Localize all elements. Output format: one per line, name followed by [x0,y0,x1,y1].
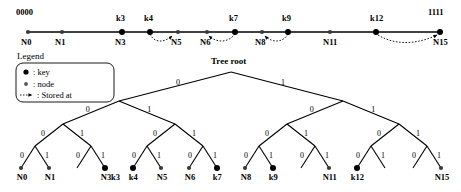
tree-leaf-node-dot-0 [19,166,23,170]
tree-bit-label-l2-n3-b0: 0 [377,130,381,138]
tree-bit-label-l1-n0-b1: 1 [147,106,151,114]
tree-bit-label-l2-n1-b0: 0 [153,130,157,138]
tree-bit-label-l3-n6-b0: 0 [356,152,360,160]
tree-bit-label-l2-n0-b0: 0 [41,130,45,138]
tree-leaf-key-dot-9 [270,165,276,171]
tree-leaf-label-k3: k3 [111,173,120,182]
tree-leaf-key-dot-4 [130,165,136,171]
tree-leaf-node-dot-11 [327,166,331,170]
tree-leaf-node-dot-8 [243,166,247,170]
tree-bit-label-l3-n7-b1: 1 [437,152,441,160]
tree-leaf-label-N8: N8 [241,173,251,182]
tree-edges [21,72,441,168]
tree-leaf-label-N0: N0 [17,173,27,182]
tree-bit-label-l1-n0-b0: 0 [86,106,90,114]
tree-bit-label-l0-n0-b0: 0 [176,79,180,87]
tree-edge-l2-n0-b1 [63,124,91,146]
tree-leaf-label-k9: k9 [269,173,278,182]
tree-edge-l0-n0-b1 [231,72,343,101]
tree-bit-label-l3-n3-b0: 0 [188,152,192,160]
tree-leaf-node-dot-6 [187,166,191,170]
binary-tree [0,0,461,192]
tree-bit-label-l0-n0-b1: 1 [281,79,285,87]
tree-bit-label-l1-n1-b1: 1 [371,106,375,114]
tree-bit-label-l2-n0-b1: 1 [80,130,84,138]
tree-leaf-label-N5: N5 [157,173,167,182]
tree-leaf-label-N3: N3 [101,173,111,182]
tree-leaf-key-dot-7 [214,165,220,171]
tree-leaf-node-dot-5 [159,166,163,170]
tree-bit-label-l3-n5-b0: 0 [300,152,304,160]
tree-bit-label-l2-n3-b1: 1 [416,130,420,138]
tree-bit-label-l3-n1-b1: 1 [101,152,105,160]
tree-bit-label-l3-n6-b1: 1 [381,152,385,160]
tree-edge-l2-n0-b0 [35,124,63,146]
tree-edge-l2-n1-b0 [147,124,175,146]
tree-bit-label-l2-n1-b1: 1 [192,130,196,138]
tree-leaf-node-dot-15 [439,166,443,170]
tree-edge-l2-n2-b1 [287,124,315,146]
tree-bit-label-l3-n7-b0: 0 [412,152,416,160]
tree-leaf-label-N15: N15 [435,173,450,182]
tree-bit-label-l3-n4-b0: 0 [244,152,248,160]
tree-leaf-dots [19,165,443,171]
tree-bit-label-l3-n0-b1: 1 [45,152,49,160]
figure-canvas: N0N1k3N3k4N5N6k7N8k9N11k12N1500001111 Le… [0,0,461,192]
tree-bit-label-l2-n2-b0: 0 [265,130,269,138]
tree-edge-l2-n2-b0 [259,124,287,146]
tree-bit-label-l3-n0-b0: 0 [20,152,24,160]
tree-edge-l1-n1-b0 [287,101,343,124]
tree-leaf-label-k7: k7 [213,173,222,182]
tree-leaf-label-k12: k12 [351,173,364,182]
tree-edge-l2-n3-b0 [371,124,399,146]
tree-leaf-label-N11: N11 [323,173,337,182]
tree-bit-label-l3-n3-b1: 1 [213,152,217,160]
tree-bit-label-l3-n2-b0: 0 [132,152,136,160]
tree-bit-label-l2-n2-b1: 1 [304,130,308,138]
tree-bit-label-l3-n2-b1: 1 [157,152,161,160]
tree-leaf-label-k4: k4 [129,173,138,182]
tree-bit-label-l3-n1-b0: 0 [76,152,80,160]
tree-leaf-label-N1: N1 [45,173,55,182]
tree-leaf-key-dot-12 [354,165,360,171]
tree-leaf-node-dot-1 [47,166,51,170]
tree-leaf-key-dot-3 [102,165,108,171]
tree-leaf-label-N6: N6 [185,173,195,182]
tree-edge-l2-n3-b1 [399,124,427,146]
tree-edge-l2-n1-b1 [175,124,203,146]
tree-bit-label-l1-n1-b0: 0 [310,106,314,114]
tree-edge-l1-n0-b0 [63,101,119,124]
tree-bit-label-l3-n5-b1: 1 [325,152,329,160]
tree-bit-label-l3-n4-b1: 1 [269,152,273,160]
